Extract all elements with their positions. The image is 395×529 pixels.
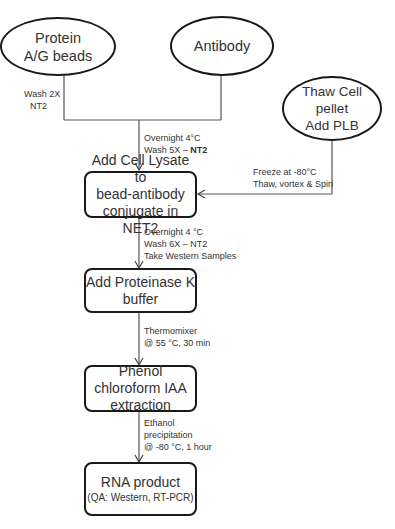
node-text: RNA product	[101, 474, 180, 491]
overnight-wash5x-label: Overnight 4°C Wash 5X – NT2	[144, 132, 207, 156]
label-line: Wash 5X – NT2	[144, 144, 207, 156]
protein-beads-node: Protein A/G beads	[0, 17, 116, 76]
add-cell-lysate-node: Add Cell Lysate to bead-antibody conjuga…	[84, 171, 197, 218]
rna-product-node: RNA product (QA: Western, RT-PCR)	[84, 462, 197, 516]
label-line: @ -80 °C, 1 hour	[144, 441, 212, 453]
label-line: Thaw, vortex & Spin	[253, 178, 333, 190]
thaw-cell-node: Thaw Cell pellet Add PLB	[282, 76, 382, 141]
label-line: Thermomixer	[144, 325, 210, 337]
label-line: Overnight 4°C	[144, 132, 207, 144]
label-line: Wash 2X	[24, 88, 60, 100]
phenol-extraction-node: Phenol chloroform IAA extraction	[84, 365, 197, 412]
node-text: extraction	[110, 397, 171, 414]
label-line: Ethanol	[144, 417, 212, 429]
label-line: @ 55 °C, 30 min	[144, 337, 210, 349]
node-text: Antibody	[194, 37, 250, 55]
label-line: Freeze at -80°C	[253, 166, 333, 178]
node-text: bead-antibody	[96, 186, 185, 203]
freeze-thaw-label: Freeze at -80°C Thaw, vortex & Spin	[253, 166, 333, 190]
thermomixer-label: Thermomixer @ 55 °C, 30 min	[144, 325, 210, 349]
node-text: pellet	[316, 100, 348, 117]
label-line: NT2	[24, 100, 60, 112]
node-text: Protein	[35, 29, 81, 47]
overnight-wash6x-label: Overnight 4 °C Wash 6X – NT2 Take Wester…	[144, 226, 236, 262]
label-line: Take Western Samples	[144, 250, 236, 262]
ethanol-precipitation-label: Ethanol precipitation @ -80 °C, 1 hour	[144, 417, 212, 453]
node-text: buffer	[123, 291, 159, 308]
node-text: chloroform IAA	[94, 380, 187, 397]
node-text: Thaw Cell	[302, 83, 362, 100]
label-line: Wash 6X – NT2	[144, 238, 236, 250]
node-text: Add Cell Lysate to	[86, 152, 195, 186]
proteinase-k-node: Add Proteinase K buffer	[84, 268, 197, 313]
node-subtext: (QA: Western, RT-PCR)	[87, 491, 193, 505]
wash-2x-label: Wash 2X NT2	[24, 88, 60, 112]
node-text: Add PLB	[305, 117, 358, 134]
label-line: Overnight 4 °C	[144, 226, 236, 238]
node-text: A/G beads	[24, 47, 93, 65]
label-line-prefix: Wash 5X –	[144, 145, 190, 155]
node-text: Phenol	[119, 363, 163, 380]
antibody-node: Antibody	[170, 16, 274, 76]
label-line: precipitation	[144, 429, 212, 441]
label-line-bold: NT2	[190, 145, 207, 155]
node-text: Add Proteinase K	[86, 274, 195, 291]
